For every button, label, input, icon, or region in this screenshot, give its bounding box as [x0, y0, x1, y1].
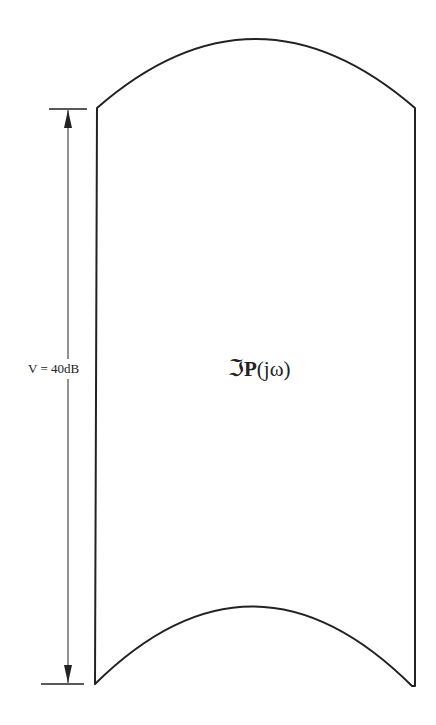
template-label: ℑP(jω): [228, 355, 290, 382]
plant-argument: (jω): [257, 357, 291, 381]
arrow-down-icon: [64, 665, 72, 683]
operator-symbol: ℑ: [228, 356, 244, 381]
dimension-label: V = 40dB: [28, 359, 79, 379]
arrow-up-icon: [64, 110, 72, 128]
plant-symbol: P: [244, 357, 257, 381]
